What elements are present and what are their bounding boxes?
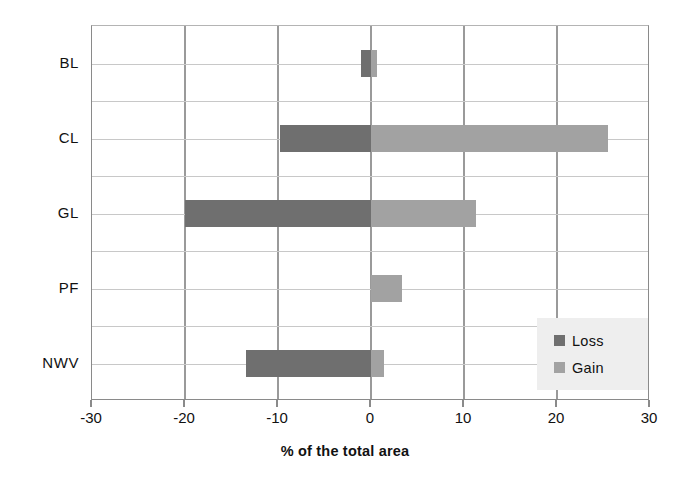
- x-axis-tickmarks: [91, 400, 649, 408]
- y-axis-tick-label-pf: PF: [59, 279, 79, 296]
- chart-container: BL CL GL PF NWV -30-20-100102030 % of th…: [0, 0, 690, 492]
- x-axis-tickmark: [462, 400, 463, 407]
- x-axis-tick-label: -20: [173, 409, 195, 426]
- bar-loss-cl: [280, 125, 371, 152]
- y-axis-tick-label-gl: GL: [58, 204, 79, 221]
- x-axis-tickmark: [90, 400, 91, 407]
- gridline-horizontal: [92, 251, 648, 252]
- x-axis-tick-label: 0: [366, 409, 374, 426]
- x-axis-title: % of the total area: [0, 443, 690, 459]
- x-axis-labels: -30-20-100102030: [91, 409, 649, 431]
- legend-swatch-loss-icon: [554, 335, 565, 346]
- bar-gain-cl: [371, 125, 608, 152]
- bar-loss-bl: [361, 50, 371, 77]
- bar-gain-gl: [371, 200, 476, 227]
- bar-row: [92, 200, 648, 227]
- bar-row: [92, 275, 648, 302]
- y-axis-tick-label-bl: BL: [59, 54, 79, 71]
- legend-item-loss: Loss: [554, 327, 648, 354]
- bar-loss-nwv: [246, 350, 371, 377]
- gridline-horizontal: [92, 176, 648, 177]
- legend-label-gain: Gain: [572, 360, 604, 376]
- bar-loss-gl: [185, 200, 371, 227]
- x-axis-tickmark: [648, 400, 649, 407]
- bar-row: [92, 125, 648, 152]
- x-axis-tickmark: [369, 400, 370, 407]
- x-axis-tickmark: [276, 400, 277, 407]
- legend-item-gain: Gain: [554, 354, 648, 381]
- gridline-horizontal: [92, 101, 648, 102]
- x-axis-tick-label: 10: [455, 409, 472, 426]
- x-axis-tickmark: [555, 400, 556, 407]
- y-axis-labels: BL CL GL PF NWV: [0, 25, 79, 400]
- x-axis-tickmark: [183, 400, 184, 407]
- legend-swatch-gain-icon: [554, 362, 565, 373]
- bar-gain-bl: [371, 50, 377, 77]
- legend: Loss Gain: [537, 318, 648, 390]
- x-axis-tick-label: 30: [641, 409, 658, 426]
- x-axis-tick-label: -30: [80, 409, 102, 426]
- bar-gain-nwv: [371, 350, 384, 377]
- y-axis-tick-label-nwv: NWV: [42, 354, 79, 371]
- legend-label-loss: Loss: [572, 333, 604, 349]
- bar-gain-pf: [371, 275, 402, 302]
- x-axis-tick-label: 20: [548, 409, 565, 426]
- x-axis-tick-label: -10: [266, 409, 288, 426]
- y-axis-tick-label-cl: CL: [59, 129, 79, 146]
- bar-row: [92, 50, 648, 77]
